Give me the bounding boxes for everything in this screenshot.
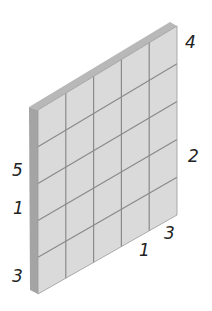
panel-side-edge bbox=[29, 107, 38, 294]
label-2: 2 bbox=[188, 148, 199, 165]
label-4: 4 bbox=[185, 34, 196, 51]
grid-panel bbox=[0, 0, 212, 311]
label-1-left: 1 bbox=[13, 200, 24, 217]
label-5: 5 bbox=[12, 162, 23, 179]
label-3-bottom: 3 bbox=[164, 225, 175, 242]
label-1-bottom: 1 bbox=[139, 242, 150, 259]
label-3-left: 3 bbox=[12, 268, 23, 285]
